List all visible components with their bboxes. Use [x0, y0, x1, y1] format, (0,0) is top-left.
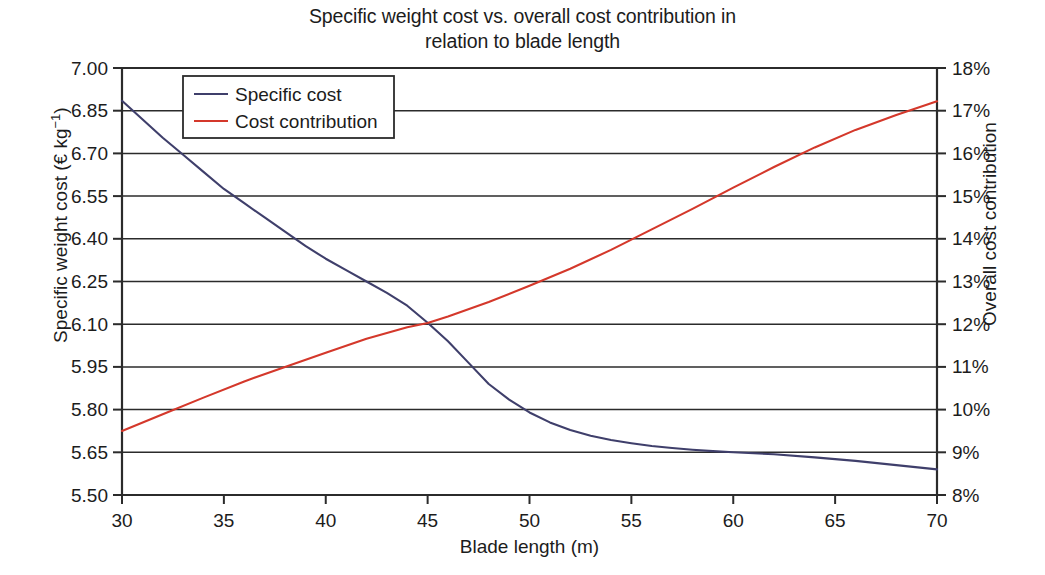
- y2-tick-label: 14%: [952, 228, 990, 249]
- x-tick-label: 45: [417, 510, 438, 531]
- y2-tick-label: 9%: [952, 442, 980, 463]
- y-tick-label: 5.50: [71, 485, 108, 506]
- y2-tick-label: 12%: [952, 314, 990, 335]
- y-axis-left-ticks: 5.505.655.805.956.106.256.406.556.706.85…: [71, 58, 122, 506]
- y-tick-label: 6.10: [71, 314, 108, 335]
- y-tick-label: 5.65: [71, 442, 108, 463]
- x-tick-label: 30: [111, 510, 132, 531]
- x-tick-label: 35: [213, 510, 234, 531]
- x-tick-label: 40: [315, 510, 336, 531]
- y2-tick-label: 15%: [952, 186, 990, 207]
- series-lines: [122, 101, 937, 470]
- x-tick-label: 65: [825, 510, 846, 531]
- legend-label: Specific cost: [235, 84, 342, 105]
- y-tick-label: 5.95: [71, 356, 108, 377]
- y-tick-label: 6.70: [71, 143, 108, 164]
- y-tick-label: 7.00: [71, 58, 108, 79]
- x-tick-label: 55: [621, 510, 642, 531]
- x-axis-ticks: 303540455055606570: [111, 495, 947, 531]
- legend-label: Cost contribution: [235, 111, 378, 132]
- legend: Specific costCost contribution: [183, 76, 394, 138]
- y2-tick-label: 17%: [952, 100, 990, 121]
- x-tick-label: 60: [723, 510, 744, 531]
- y-tick-label: 5.80: [71, 399, 108, 420]
- y2-tick-label: 11%: [952, 356, 989, 377]
- y2-tick-label: 8%: [952, 485, 980, 506]
- x-tick-label: 70: [926, 510, 947, 531]
- x-tick-label: 50: [519, 510, 540, 531]
- y-tick-label: 6.85: [71, 100, 108, 121]
- chart-figure: Specific weight cost vs. overall cost co…: [0, 0, 1045, 575]
- y-tick-label: 6.55: [71, 186, 108, 207]
- y2-tick-label: 18%: [952, 58, 990, 79]
- y2-tick-label: 16%: [952, 143, 990, 164]
- series-line-cost-contribution: [122, 101, 937, 431]
- y-tick-label: 6.40: [71, 228, 108, 249]
- y-axis-right-ticks: 8%9%10%11%12%13%14%15%16%17%18%: [937, 58, 990, 506]
- y2-tick-label: 10%: [952, 399, 990, 420]
- plot-area: 303540455055606570 5.505.655.805.956.106…: [0, 0, 1045, 575]
- y-tick-label: 6.25: [71, 271, 108, 292]
- y2-tick-label: 13%: [952, 271, 990, 292]
